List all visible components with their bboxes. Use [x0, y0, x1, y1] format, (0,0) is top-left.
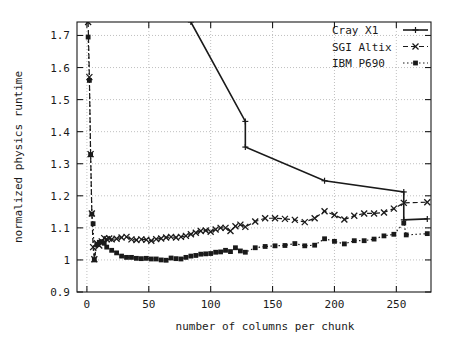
- legend-label-sgi-altix: SGI Altix: [332, 41, 392, 54]
- y-tick-label: 0.9: [50, 286, 70, 299]
- x-tick-label: 200: [325, 298, 345, 311]
- y-axis-title: normalized physics runtime: [12, 71, 25, 243]
- x-tick-label: 150: [263, 298, 283, 311]
- legend-label-ibm-p690: IBM P690: [332, 57, 385, 70]
- y-tick-label: 1.6: [50, 62, 70, 75]
- x-tick-label: 100: [201, 298, 221, 311]
- y-tick-label: 1.3: [50, 158, 70, 171]
- legend: Cray X1SGI AltixIBM P690: [332, 24, 428, 70]
- x-tick-label: 50: [142, 298, 155, 311]
- data-series: [85, 19, 430, 263]
- y-tick-label: 1.7: [50, 29, 70, 42]
- x-tick-label: 0: [84, 298, 91, 311]
- series-cray-x1: [188, 19, 430, 223]
- y-tick-label: 1: [63, 254, 70, 267]
- y-tick-label: 1.4: [50, 126, 70, 139]
- x-axis-title: number of columns per chunk: [176, 320, 355, 333]
- chart-container: 0.911.11.21.31.41.51.61.7050100150200250…: [0, 0, 466, 345]
- y-tick-label: 1.5: [50, 94, 70, 107]
- y-tick-label: 1.1: [50, 222, 70, 235]
- tick-labels: 0.911.11.21.31.41.51.61.7050100150200250: [50, 29, 406, 311]
- y-tick-label: 1.2: [50, 190, 70, 203]
- series-sgi-altix: [85, 19, 430, 262]
- legend-label-cray-x1: Cray X1: [332, 24, 378, 37]
- x-tick-label: 250: [386, 298, 406, 311]
- chart-plot: 0.911.11.21.31.41.51.61.7050100150200250…: [0, 0, 466, 345]
